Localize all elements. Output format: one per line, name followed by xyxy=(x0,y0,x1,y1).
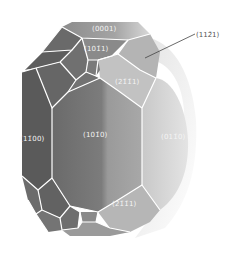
crystal-diagram: (0001) (101̄1) (11̄00) (101̄0) (011̄0) (… xyxy=(0,0,240,258)
label-01-10: (011̄0) xyxy=(161,133,186,141)
label-2-1-11-lower: (21̄1̄1) xyxy=(112,200,137,208)
label-11-21: (112̄1) xyxy=(196,31,220,39)
label-2-1-11-upper: (21̄1̄1) xyxy=(115,78,140,86)
label-10-10: (101̄0) xyxy=(83,131,108,139)
label-0001: (0001) xyxy=(92,25,117,33)
label-10-11: (101̄1) xyxy=(84,45,109,53)
label-1-100: (11̄00) xyxy=(20,135,45,143)
facet-lower-small xyxy=(80,212,98,222)
